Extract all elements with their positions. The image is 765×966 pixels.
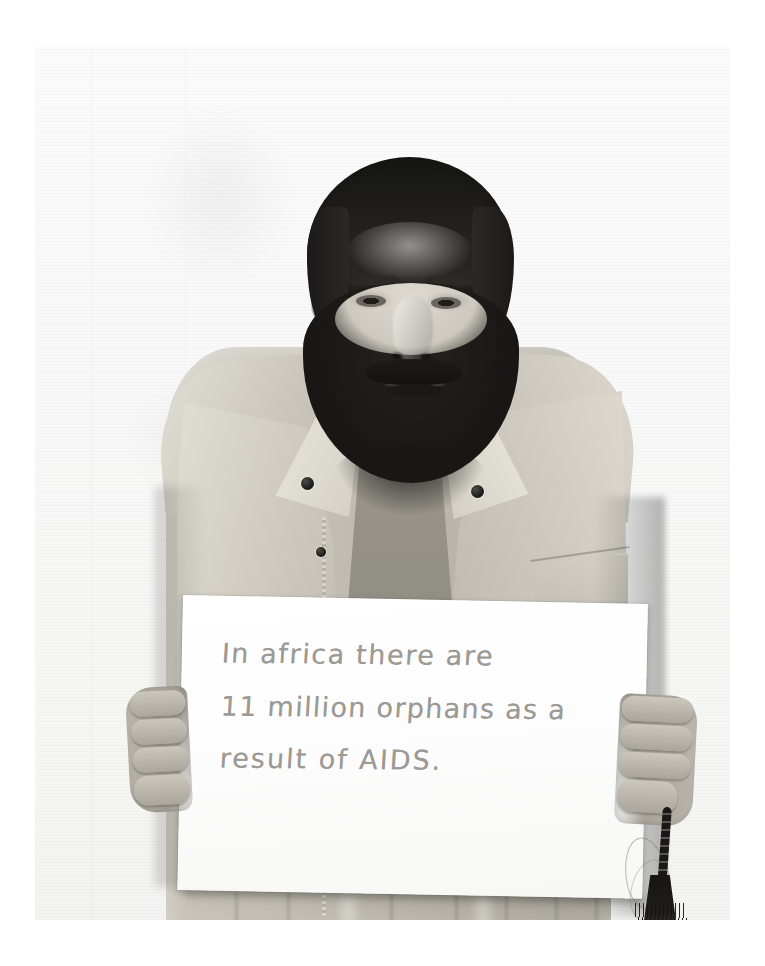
mouth xyxy=(387,384,443,397)
vest-snap-button-left xyxy=(301,477,314,490)
nostril-left xyxy=(392,352,403,359)
moustache xyxy=(366,359,462,385)
subject-figure: In africa there are 11 million orphans a… xyxy=(35,47,730,920)
sign-line-3: result of AIDS. xyxy=(218,733,622,790)
finger xyxy=(620,723,693,752)
handwritten-sign: In africa there are 11 million orphans a… xyxy=(177,595,648,899)
finger xyxy=(132,745,189,773)
hand-right xyxy=(614,693,699,827)
sign-line-1: In africa there are xyxy=(220,628,624,685)
finger xyxy=(133,773,190,806)
finger xyxy=(621,695,694,724)
vest-snap-button-lower xyxy=(316,547,326,557)
finger xyxy=(618,751,691,780)
beard-lower xyxy=(335,445,485,515)
sign-text-block: In africa there are 11 million orphans a… xyxy=(219,626,623,792)
sign-line-2: 11 million orphans as a xyxy=(219,680,623,737)
photograph: In africa there are 11 million orphans a… xyxy=(35,47,730,920)
eye-left xyxy=(356,295,386,307)
finger xyxy=(129,690,186,718)
forehead-highlight xyxy=(347,222,472,282)
eye-right xyxy=(431,297,461,309)
hand-left xyxy=(125,685,193,813)
bead-tassel-threads xyxy=(635,903,687,920)
page-canvas: In africa there are 11 million orphans a… xyxy=(0,0,765,966)
finger xyxy=(130,718,187,746)
